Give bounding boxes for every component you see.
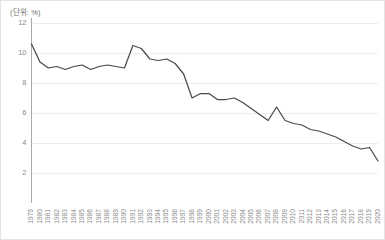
x-tick-label: 2013: [315, 209, 322, 224]
x-tick-label: 2000: [205, 209, 212, 224]
x-tick-label: 2014: [323, 209, 330, 224]
x-tick-label: 1981: [44, 209, 51, 224]
x-tick-label: 2004: [239, 209, 246, 224]
y-tick-label: 10: [18, 48, 26, 57]
x-tick-label: 1995: [162, 209, 169, 224]
plot-area: 24681012 1979198019811982198319841985198…: [1, 1, 385, 240]
chart-card: (단위: %) 24681012 19791980198119821983198…: [0, 0, 385, 240]
x-tick-label: 1986: [86, 209, 93, 224]
x-tick-label: 1997: [179, 209, 186, 224]
x-tick-label: 1980: [36, 209, 43, 224]
x-tick-label: 1991: [129, 209, 136, 224]
x-tick-label: 2020: [374, 209, 381, 224]
x-axis-tick-labels: 1979198019811982198319841985198619871988…: [27, 209, 381, 224]
x-tick-label: 1999: [196, 209, 203, 224]
grid-lines: [32, 23, 379, 173]
x-tick-label: 2016: [340, 209, 347, 224]
x-tick-label: 1987: [95, 209, 102, 224]
x-tick-label: 1990: [120, 209, 127, 224]
x-tick-label: 1998: [188, 209, 195, 224]
x-tick-label: 2002: [222, 209, 229, 224]
y-tick-label: 12: [18, 18, 26, 27]
x-tick-label: 1982: [53, 209, 60, 224]
x-tick-label: 1994: [154, 209, 161, 224]
x-tick-label: 1992: [137, 209, 144, 224]
x-tick-label: 1979: [27, 209, 34, 224]
x-tick-label: 2007: [264, 209, 271, 224]
x-tick-label: 2018: [357, 209, 364, 224]
y-axis-tick-labels: 24681012: [18, 18, 26, 177]
y-tick-label: 8: [22, 78, 26, 87]
x-tick-label: 1989: [112, 209, 119, 224]
x-tick-label: 2009: [281, 209, 288, 224]
x-tick-label: 2011: [298, 209, 305, 224]
y-tick-label: 6: [22, 108, 26, 117]
x-tick-label: 1985: [78, 209, 85, 224]
x-tick-label: 2012: [306, 209, 313, 224]
x-tick-label: 1984: [70, 209, 77, 224]
x-tick-label: 2003: [230, 209, 237, 224]
x-tick-label: 1996: [171, 209, 178, 224]
y-tick-label: 2: [22, 168, 26, 177]
x-tick-label: 2019: [365, 209, 372, 224]
x-tick-label: 1993: [146, 209, 153, 224]
x-tick-label: 2005: [247, 209, 254, 224]
x-tick-label: 2017: [348, 209, 355, 224]
x-tick-label: 1983: [61, 209, 68, 224]
x-tick-label: 2006: [255, 209, 262, 224]
x-tick-label: 2010: [289, 209, 296, 224]
x-tick-label: 2015: [331, 209, 338, 224]
line-chart-svg: 24681012 1979198019811982198319841985198…: [1, 1, 385, 240]
x-tick-label: 2008: [272, 209, 279, 224]
x-tick-label: 2001: [213, 209, 220, 224]
x-tick-label: 1988: [103, 209, 110, 224]
y-tick-label: 4: [22, 138, 26, 147]
